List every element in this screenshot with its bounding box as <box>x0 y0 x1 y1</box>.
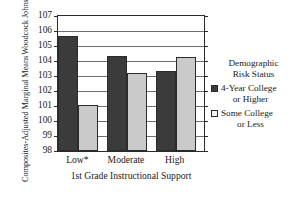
y-tick-label: 100 <box>38 116 52 125</box>
light-swatch-icon <box>211 110 218 117</box>
y-tick-label: 107 <box>38 11 52 20</box>
y-tick-label: 98 <box>43 146 52 155</box>
legend-label-line-1: Some College <box>221 108 273 119</box>
gridline <box>58 46 204 47</box>
y-tick-label: 101 <box>38 101 52 110</box>
y-tick-label: 102 <box>38 86 52 95</box>
gridline <box>58 31 204 32</box>
y-tick-mark-right <box>204 121 208 122</box>
bar <box>107 56 127 151</box>
y-tick-mark <box>54 31 58 32</box>
y-tick-mark-right <box>204 76 208 77</box>
legend-entry-college-or-higher: 4-Year College or Higher <box>211 83 296 105</box>
bar <box>58 36 78 151</box>
y-tick-mark-right <box>204 46 208 47</box>
dark-swatch-icon <box>211 85 218 92</box>
legend: Demographic Risk Status 4-Year College o… <box>211 58 296 130</box>
y-axis-title: Composites-Adjusted Marginal Means Woodc… <box>11 0 41 140</box>
legend-title-line-2: Risk Status <box>211 69 296 80</box>
y-tick-mark-right <box>204 16 208 17</box>
y-tick-mark <box>54 16 58 17</box>
y-tick-label: 105 <box>38 41 52 50</box>
plot-area: 9899100101102103104105106107 <box>57 15 205 152</box>
bar <box>78 105 98 151</box>
x-tick-label-low: Low* <box>66 155 88 165</box>
y-tick-mark-right <box>204 91 208 92</box>
legend-label-line-2: or Higher <box>211 94 296 105</box>
y-tick-label: 103 <box>38 71 52 80</box>
legend-entry-some-college-or-less: Some College or Less <box>211 108 296 130</box>
bar <box>127 73 147 151</box>
y-tick-mark-right <box>204 61 208 62</box>
x-axis-title: 1st Grade Instructional Support <box>57 171 205 181</box>
y-tick-mark-right <box>204 151 208 152</box>
y-tick-mark-right <box>204 106 208 107</box>
legend-label-line-1: 4-Year College <box>221 83 276 94</box>
x-tick-label-moderate: Moderate <box>108 155 145 165</box>
y-tick-mark-right <box>204 136 208 137</box>
y-tick-mark-right <box>204 31 208 32</box>
x-tick-label-high: High <box>165 155 184 165</box>
legend-title-line-1: Demographic <box>211 58 296 69</box>
y-tick-label: 106 <box>38 26 52 35</box>
bar <box>156 71 176 151</box>
bar <box>176 57 196 152</box>
y-axis-title-line-1: Woodcock Johnson 1st Grade <box>21 0 31 55</box>
y-axis-title-line-2: Composites-Adjusted Marginal Means <box>21 56 31 182</box>
y-tick-label: 99 <box>43 131 52 140</box>
legend-label-line-2: or Less <box>211 119 296 130</box>
bar-chart-figure: Composites-Adjusted Marginal Means Woodc… <box>0 0 296 209</box>
y-tick-label: 104 <box>38 56 52 65</box>
